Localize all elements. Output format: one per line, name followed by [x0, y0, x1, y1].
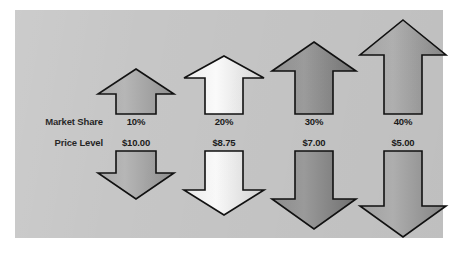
- down-arrow-shape: [272, 151, 356, 229]
- column-4: 40% $5.00: [357, 10, 449, 238]
- row-label-price-level: Price Level: [28, 137, 103, 148]
- down-arrow-shape: [98, 151, 174, 199]
- market-share-value-2: 20%: [181, 116, 267, 127]
- price-level-value-4: $5.00: [357, 137, 449, 148]
- price-level-value-1: $10.00: [95, 137, 177, 148]
- up-arrow-shape: [98, 69, 174, 114]
- up-arrow-shape: [272, 42, 356, 114]
- price-level-value-3: $7.00: [269, 137, 359, 148]
- up-arrow-shape: [184, 56, 264, 114]
- market-share-value-1: 10%: [95, 116, 177, 127]
- down-arrow-shape: [360, 151, 446, 237]
- price-level-value-2: $8.75: [181, 137, 267, 148]
- market-share-value-3: 30%: [269, 116, 359, 127]
- column-2: 20% $8.75: [181, 10, 267, 238]
- down-arrow-shape: [184, 151, 264, 215]
- column-1: 10% $10.00: [95, 10, 177, 238]
- chart-panel: Market Share Price Level: [15, 10, 443, 238]
- row-label-market-share: Market Share: [28, 116, 103, 127]
- figure-root: Market Share Price Level: [0, 0, 456, 254]
- market-share-value-4: 40%: [357, 116, 449, 127]
- column-3: 30% $7.00: [269, 10, 359, 238]
- up-arrow-shape: [360, 20, 446, 114]
- row-label-column: Market Share Price Level: [28, 10, 103, 238]
